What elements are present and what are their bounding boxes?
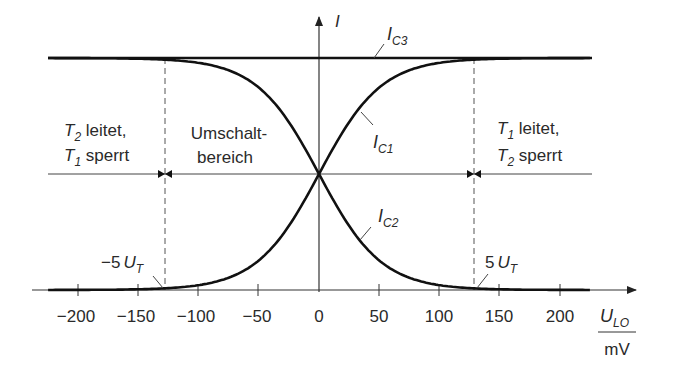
region-label-middle: Umschalt- bereich — [191, 124, 268, 167]
svg-text:−150: −150 — [117, 307, 155, 326]
svg-text:T1 leitet,: T1 leitet, — [497, 119, 559, 142]
svg-text:T2 sperrt: T2 sperrt — [497, 146, 563, 169]
svg-text:−200: −200 — [57, 307, 95, 326]
ic2-leader-line — [360, 227, 371, 240]
label-ic2: IC2 — [378, 206, 399, 230]
y-axis-label: I — [335, 12, 340, 31]
svg-text:mV: mV — [604, 340, 630, 359]
svg-text:200: 200 — [546, 307, 574, 326]
svg-text:ULO: ULO — [600, 306, 629, 330]
marker-plus-5ut: 5UT — [485, 253, 519, 276]
minus-5ut-leader-line — [153, 276, 163, 288]
differential-pair-diagram: I −200 −150 −100 −50 0 50 100 150 200 UL… — [0, 0, 677, 383]
ic3-leader-line — [374, 44, 384, 58]
region-label-left: T2 leitet, T1 sperrt — [64, 121, 130, 169]
x-axis-tick-labels: −200 −150 −100 −50 0 50 100 150 200 — [57, 307, 574, 326]
svg-text:bereich: bereich — [197, 148, 253, 167]
x-axis-unit-label: ULO mV — [598, 306, 636, 359]
svg-text:Umschalt-: Umschalt- — [191, 124, 268, 143]
ic1-leader-line — [361, 112, 373, 125]
svg-text:150: 150 — [485, 307, 513, 326]
marker-minus-5ut: −5UT — [101, 253, 145, 276]
svg-text:100: 100 — [425, 307, 453, 326]
region-label-right: T1 leitet, T2 sperrt — [497, 119, 563, 169]
svg-text:T2 leitet,: T2 leitet, — [64, 121, 126, 144]
svg-text:50: 50 — [370, 307, 389, 326]
label-ic1: IC1 — [373, 132, 393, 156]
plus-5ut-leader-line — [477, 274, 488, 288]
label-ic3: IC3 — [387, 24, 408, 48]
svg-text:T1 sperrt: T1 sperrt — [64, 146, 130, 169]
svg-text:−50: −50 — [243, 307, 272, 326]
svg-text:−100: −100 — [177, 307, 215, 326]
svg-text:0: 0 — [314, 307, 323, 326]
